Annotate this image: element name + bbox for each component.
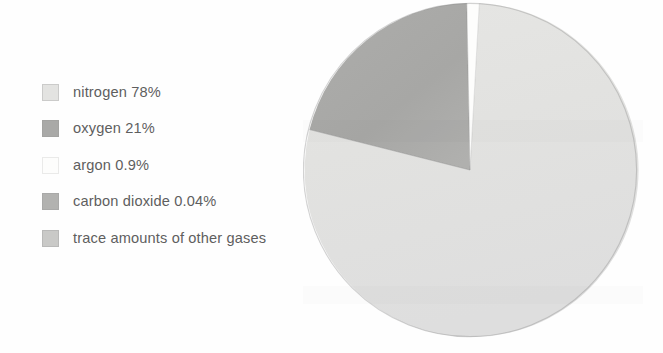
pie-chart [303, 0, 643, 353]
legend-item-carbon-dioxide[interactable]: carbon dioxide 0.04% [42, 184, 304, 221]
atmosphere-composition-pie-figure: nitrogen 78% oxygen 21% argon 0.9% carbo… [0, 0, 663, 353]
legend-label-trace-gases: trace amounts of other gases [73, 231, 266, 246]
pie-chart-svg [303, 0, 643, 353]
legend-item-oxygen[interactable]: oxygen 21% [42, 111, 304, 148]
legend-item-trace-gases[interactable]: trace amounts of other gases [42, 220, 304, 257]
legend-label-nitrogen: nitrogen 78% [73, 85, 161, 100]
legend-swatch-trace-gases [42, 230, 59, 247]
legend-swatch-carbon-dioxide [42, 193, 59, 210]
legend-swatch-argon [42, 157, 59, 174]
legend-swatch-oxygen [42, 120, 59, 137]
chart-legend: nitrogen 78% oxygen 21% argon 0.9% carbo… [42, 74, 304, 257]
legend-item-argon[interactable]: argon 0.9% [42, 147, 304, 184]
legend-label-carbon-dioxide: carbon dioxide 0.04% [73, 194, 216, 209]
legend-item-nitrogen[interactable]: nitrogen 78% [42, 74, 304, 111]
legend-swatch-nitrogen [42, 84, 59, 101]
legend-label-argon: argon 0.9% [73, 158, 149, 173]
legend-label-oxygen: oxygen 21% [73, 121, 155, 136]
